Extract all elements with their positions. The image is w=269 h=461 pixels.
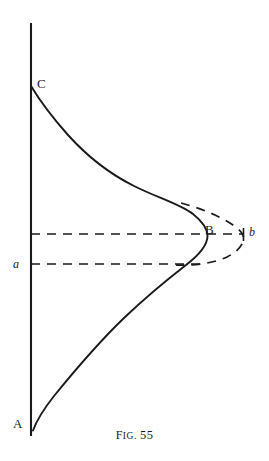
caption-number: 55 [140,428,153,442]
caption-small-caps: IG. [123,431,137,441]
figure-caption: FIG.55 [0,428,269,443]
figure-drawing [0,0,269,461]
label-level-a: a [13,258,19,270]
label-point-c: C [37,77,46,90]
figure-container: C A B a b FIG.55 [0,0,269,461]
label-level-b: b [249,226,255,238]
label-point-b-upper: B [205,223,214,236]
caption-prefix-letter: F [116,428,123,442]
solid-curve-path [31,86,208,431]
